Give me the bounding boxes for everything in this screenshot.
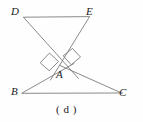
vertex-label-d: D [11,6,19,17]
vertex-label-a: A [56,69,63,80]
figure-caption: ( d ) [56,103,77,115]
vertex-label-b: B [11,86,18,97]
vertex-label-e: E [86,6,93,17]
segment-DE [24,17,90,18]
right-angle-mark-right [64,49,81,65]
geometry-figure: D E A B C ( d ) [0,0,143,122]
vertex-label-c: C [119,87,126,98]
segment-AC [60,66,122,94]
